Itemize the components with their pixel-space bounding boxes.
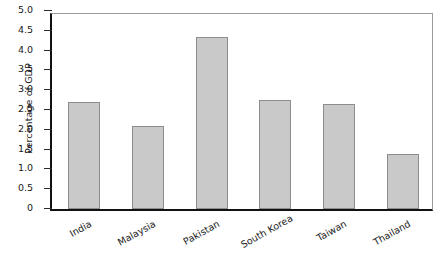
y-axis-tick-label: 4.0	[18, 44, 33, 55]
y-axis-tick: 2.0	[44, 129, 52, 130]
bar	[259, 100, 291, 209]
y-axis-tick: 1.5	[44, 149, 52, 150]
y-axis-tick-label: 3.5	[18, 63, 33, 74]
x-axis-tick-label: Pakistan	[175, 218, 221, 250]
plot-area: 00.51.01.52.02.53.03.54.04.55.0	[50, 13, 433, 211]
bar	[68, 102, 100, 209]
y-axis-tick-label: 1.0	[18, 162, 33, 173]
x-axis-tick-label: Malaysia	[112, 218, 158, 250]
y-axis-tick: 2.5	[44, 109, 52, 110]
y-axis-tick: 5.0	[44, 10, 52, 11]
y-axis-tick: 4.5	[44, 30, 52, 31]
bar-chart-figure: Percentage of GDP 00.51.01.52.02.53.03.5…	[0, 0, 440, 273]
y-axis-tick-label: 2.0	[18, 123, 33, 134]
y-axis-tick: 4.0	[44, 50, 52, 51]
bar	[132, 126, 164, 209]
bar	[323, 104, 355, 209]
y-axis-tick-label: 4.5	[18, 24, 33, 35]
x-axis-tick-label: South Korea	[239, 218, 285, 250]
y-axis-tick-label: 2.5	[18, 103, 33, 114]
bar	[196, 37, 228, 209]
y-axis-tick-label: 5.0	[18, 4, 33, 15]
bar	[387, 154, 419, 209]
x-axis-tick-label: India	[48, 218, 94, 250]
y-axis-tick: 0	[44, 208, 52, 209]
y-axis-tick: 3.5	[44, 69, 52, 70]
y-axis-tick-label: 0	[27, 202, 33, 213]
y-axis-tick: 0.5	[44, 188, 52, 189]
y-axis-tick-label: 3.0	[18, 83, 33, 94]
y-axis-tick: 3.0	[44, 89, 52, 90]
y-axis-tick-label: 0.5	[18, 182, 33, 193]
y-axis-tick-label: 1.5	[18, 143, 33, 154]
y-axis-tick: 1.0	[44, 168, 52, 169]
x-axis-tick-label: Taiwan	[303, 218, 349, 250]
x-axis-tick-label: Thailand	[367, 218, 413, 250]
